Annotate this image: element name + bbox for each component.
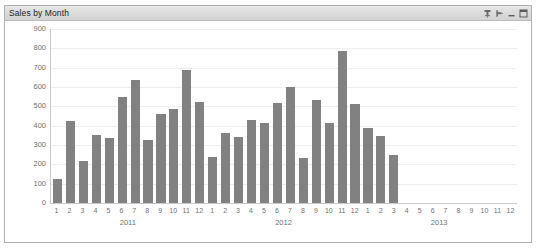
bar-slot [142, 29, 155, 203]
bar[interactable] [66, 121, 75, 203]
x-axis-tick-label: 8 [141, 205, 154, 217]
y-axis-tick-label: 300 [33, 141, 46, 149]
x-axis-tick-label: 5 [413, 205, 426, 217]
x-axis-tick-label: 6 [270, 205, 283, 217]
bar-slot [271, 29, 284, 203]
x-axis-tick-label: 8 [296, 205, 309, 217]
pin-icon[interactable] [483, 9, 492, 18]
bar-slot [219, 29, 232, 203]
bar[interactable] [208, 157, 217, 203]
bar[interactable] [131, 80, 140, 203]
unpin-icon[interactable] [495, 9, 504, 18]
bar-slot [310, 29, 323, 203]
plot-area: 0100200300400500600700800900 [50, 29, 517, 204]
x-axis-tick-label: 4 [400, 205, 413, 217]
bar[interactable] [169, 109, 178, 203]
x-axis-tick-label: 9 [154, 205, 167, 217]
bar-slot [465, 29, 478, 203]
bar[interactable] [376, 136, 385, 203]
y-axis-tick-label: 0 [42, 199, 46, 207]
bar[interactable] [234, 137, 243, 203]
bar[interactable] [350, 104, 359, 203]
window-titlebar[interactable]: Sales by Month [5, 6, 531, 21]
bar-slot [413, 29, 426, 203]
bar[interactable] [286, 87, 295, 203]
x-axis-tick-label: 12 [348, 205, 361, 217]
y-axis-tick-label: 700 [33, 64, 46, 72]
bar[interactable] [143, 140, 152, 203]
x-axis-tick-label: 7 [128, 205, 141, 217]
bar-slot [336, 29, 349, 203]
y-axis-tick-label: 800 [33, 45, 46, 53]
bar-slot [129, 29, 142, 203]
bar-slot [232, 29, 245, 203]
bar-slot [77, 29, 90, 203]
bar[interactable] [79, 161, 88, 203]
bar[interactable] [118, 97, 127, 203]
bar-slot [206, 29, 219, 203]
bar[interactable] [105, 138, 114, 203]
x-axis-tick-label: 10 [478, 205, 491, 217]
restore-icon[interactable] [519, 9, 528, 18]
bar[interactable] [299, 158, 308, 203]
bar-slot [400, 29, 413, 203]
bar-slot [426, 29, 439, 203]
bar[interactable] [338, 51, 347, 203]
bar-slot [478, 29, 491, 203]
x-axis-tick-label: 1 [50, 205, 63, 217]
bar-slot [245, 29, 258, 203]
bar-slot [116, 29, 129, 203]
x-axis-tick-label: 11 [491, 205, 504, 217]
bar-slot [258, 29, 271, 203]
x-axis-tick-label: 5 [258, 205, 271, 217]
bar[interactable] [260, 123, 269, 203]
x-axis-group-labels: 201120122013 [50, 217, 517, 229]
x-axis-tick-label: 6 [115, 205, 128, 217]
bar-slot [452, 29, 465, 203]
x-axis-tick-label: 2 [219, 205, 232, 217]
bar[interactable] [195, 102, 204, 204]
x-axis-tick-label: 3 [232, 205, 245, 217]
x-axis-ticks: 1234567891011121234567891011121234567891… [50, 205, 517, 217]
x-axis-group-label: 2012 [206, 217, 362, 229]
bar-slot [51, 29, 64, 203]
bar-slot [284, 29, 297, 203]
x-axis-tick-label: 10 [167, 205, 180, 217]
x-axis-tick-label: 1 [361, 205, 374, 217]
bar[interactable] [389, 155, 398, 203]
x-axis-tick-label: 4 [89, 205, 102, 217]
bar[interactable] [312, 100, 321, 203]
chart-window: Sales by Month [4, 5, 532, 243]
y-axis-tick-label: 900 [33, 25, 46, 33]
x-axis-tick-label: 2 [374, 205, 387, 217]
bar-slot [362, 29, 375, 203]
x-axis-tick-label: 11 [335, 205, 348, 217]
x-axis-tick-label: 6 [426, 205, 439, 217]
x-axis-tick-label: 5 [102, 205, 115, 217]
bar-series [51, 29, 517, 203]
bar[interactable] [92, 135, 101, 203]
screenshot-root: Sales by Month [0, 0, 536, 249]
bar[interactable] [182, 70, 191, 203]
bar-slot [193, 29, 206, 203]
bar[interactable] [273, 103, 282, 203]
minimize-icon[interactable] [507, 9, 516, 18]
x-axis-tick-label: 11 [180, 205, 193, 217]
x-axis-tick-label: 12 [504, 205, 517, 217]
x-axis-group-label: 2013 [361, 217, 517, 229]
bar-slot [491, 29, 504, 203]
bar[interactable] [221, 133, 230, 203]
x-axis-tick-label: 4 [245, 205, 258, 217]
x-axis-tick-label: 3 [387, 205, 400, 217]
y-axis-tick-label: 400 [33, 122, 46, 130]
y-axis-tick-label: 100 [33, 180, 46, 188]
bar-slot [64, 29, 77, 203]
window-title: Sales by Month [9, 9, 483, 18]
bar[interactable] [53, 179, 62, 203]
x-axis-tick-label: 1 [206, 205, 219, 217]
bar[interactable] [325, 123, 334, 203]
bar[interactable] [156, 114, 165, 203]
bar[interactable] [247, 120, 256, 203]
x-axis-tick-label: 7 [283, 205, 296, 217]
bar[interactable] [363, 128, 372, 203]
